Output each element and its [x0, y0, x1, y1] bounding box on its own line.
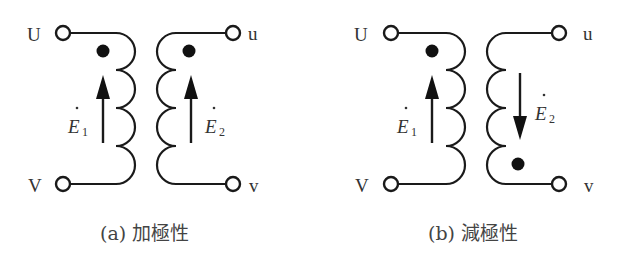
phasor-dot-icon — [76, 107, 79, 110]
terminal-label-U: U — [354, 24, 368, 45]
panel-b-secondary-winding: u v E 2 — [487, 23, 594, 196]
terminal-u-icon — [226, 26, 240, 40]
terminal-label-u: u — [248, 23, 258, 44]
svg-text:1: 1 — [411, 125, 417, 139]
phasor-dot-icon — [405, 107, 408, 110]
svg-text:2: 2 — [219, 125, 225, 139]
emf-label-E1: E 1 — [396, 107, 417, 139]
terminal-label-v: v — [584, 175, 594, 196]
polarity-dot-icon — [512, 158, 525, 171]
emf-arrow-up-icon — [96, 75, 110, 143]
transformer-polarity-diagram: U V E 1 u v — [0, 0, 620, 256]
svg-text:1: 1 — [82, 125, 88, 139]
terminal-v-icon — [226, 177, 240, 191]
terminal-label-v: v — [249, 175, 259, 196]
emf-label-E1: E 1 — [67, 107, 88, 139]
terminal-label-U: U — [27, 24, 41, 45]
polarity-dot-icon — [426, 45, 439, 58]
terminal-V-icon — [384, 177, 398, 191]
panel-a-secondary-winding: u v E 2 — [157, 23, 259, 196]
terminal-V-icon — [56, 177, 70, 191]
terminal-label-u: u — [583, 23, 593, 44]
svg-text:E: E — [67, 116, 80, 137]
polarity-dot-icon — [97, 45, 110, 58]
terminal-label-V: V — [28, 175, 42, 196]
panel-b-primary-winding: U V E 1 — [354, 24, 465, 196]
svg-text:E: E — [534, 103, 547, 124]
terminal-v-icon — [552, 177, 566, 191]
terminal-U-icon — [56, 26, 70, 40]
panel-a-additive-polarity: U V E 1 u v — [27, 23, 259, 244]
svg-text:E: E — [396, 116, 409, 137]
panel-a-primary-winding: U V E 1 — [27, 24, 135, 196]
emf-arrow-up-icon — [425, 75, 439, 143]
svg-text:2: 2 — [549, 112, 555, 126]
panel-b-subtractive-polarity: U V E 1 u v — [354, 23, 594, 244]
phasor-dot-icon — [213, 107, 216, 110]
terminal-U-icon — [384, 26, 398, 40]
emf-arrow-up-icon — [184, 75, 198, 143]
polarity-dot-icon — [183, 45, 196, 58]
emf-arrow-down-icon — [513, 73, 527, 140]
emf-label-E2: E 2 — [204, 107, 225, 139]
emf-label-E2: E 2 — [534, 94, 555, 126]
caption-a: (a) 加極性 — [100, 222, 189, 244]
svg-text:E: E — [204, 116, 217, 137]
caption-b: (b) 減極性 — [428, 222, 518, 244]
phasor-dot-icon — [543, 94, 546, 97]
terminal-label-V: V — [355, 175, 369, 196]
terminal-u-icon — [552, 26, 566, 40]
